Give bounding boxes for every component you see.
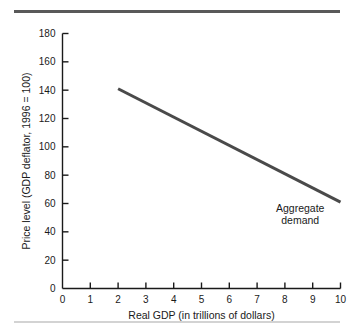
x-axis-tick-label: 5 — [199, 294, 205, 305]
aggregate-demand-curve — [118, 89, 340, 202]
x-axis-tick-label: 7 — [254, 294, 260, 305]
x-axis-tick-label: 0 — [60, 294, 66, 305]
x-axis-tick-label: 2 — [115, 294, 121, 305]
x-axis-tick-label: 6 — [227, 294, 233, 305]
y-axis-tick-label: 160 — [39, 56, 56, 67]
aggregate-demand-label-line1: Aggregate — [276, 202, 325, 214]
aggregate-demand-figure: 020406080100120140160180 012345678910 Ag… — [0, 0, 354, 335]
chart-canvas: 020406080100120140160180 012345678910 Ag… — [0, 0, 354, 335]
axis-titles-group: Real GDP (in trillions of dollars)Price … — [20, 73, 275, 321]
y-axis: 020406080100120140160180 — [39, 28, 69, 294]
x-axis: 012345678910 — [60, 283, 347, 305]
x-axis-tick-label: 9 — [310, 294, 316, 305]
data-series-group — [118, 89, 340, 202]
y-axis-tick-label: 120 — [39, 113, 56, 124]
y-axis-tick-label: 0 — [50, 283, 56, 294]
x-axis-title: Real GDP (in trillions of dollars) — [128, 309, 274, 321]
y-axis-tick-label: 100 — [39, 141, 56, 152]
annotations-group: Aggregatedemand — [276, 202, 325, 226]
x-axis-tick-label: 1 — [88, 294, 94, 305]
y-axis-tick-label: 80 — [44, 170, 56, 181]
y-axis-title: Price level (GDP deflator, 1996 = 100) — [20, 73, 32, 250]
y-axis-tick-label: 60 — [44, 198, 56, 209]
y-axis-tick-label: 140 — [39, 85, 56, 96]
x-axis-tick-label: 10 — [335, 294, 347, 305]
aggregate-demand-label-line2: demand — [281, 214, 319, 226]
x-axis-tick-label: 8 — [282, 294, 288, 305]
y-axis-tick-label: 20 — [44, 255, 56, 266]
x-axis-tick-label: 3 — [143, 294, 149, 305]
y-axis-tick-label: 40 — [44, 226, 56, 237]
y-axis-tick-label: 180 — [39, 28, 56, 39]
x-axis-tick-label: 4 — [171, 294, 177, 305]
